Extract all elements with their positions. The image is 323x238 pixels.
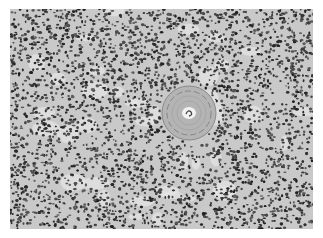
micrograph-image (10, 9, 313, 229)
cell-field (10, 9, 313, 229)
central-lumen (182, 107, 196, 119)
